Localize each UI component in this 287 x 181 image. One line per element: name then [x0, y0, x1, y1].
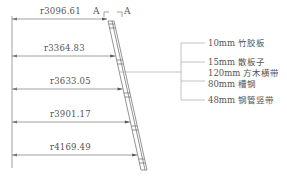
section-mark-a-a: A A [92, 6, 131, 17]
dimension-label: r3096.61 [40, 6, 81, 16]
dimension-lines: r3096.61 r3364.83 r3633.05 r3901.17 r416… [12, 6, 137, 157]
callout-label-loose-board: 15mm 散板子 [208, 57, 265, 67]
arrowhead-left-icon [12, 121, 17, 124]
formwork-strip [108, 21, 147, 170]
dimension-5: r4169.49 [12, 142, 137, 157]
callout-leader [119, 43, 205, 100]
callout-label-timber-wale: 120mm 方木横带 [208, 68, 279, 78]
arrowhead-left-icon [12, 88, 17, 91]
callout-label-steel-pipe: 48mm 钢管竖带 [208, 95, 274, 105]
dimension-label: r3633.05 [50, 76, 91, 86]
arrowhead-right-icon [132, 154, 137, 157]
section-mark-right: A [123, 6, 131, 16]
callout-label-channel-steel: 80mm 槽钢 [208, 79, 256, 89]
dimension-2: r3364.83 [12, 43, 115, 58]
arrowhead-right-icon [110, 55, 115, 58]
arrowhead-left-icon [12, 55, 17, 58]
callout-labels: 10mm 竹胶板 15mm 散板子 120mm 方木横带 80mm 槽钢 48m… [208, 38, 279, 105]
arrowhead-right-icon [118, 88, 123, 91]
arrowhead-right-icon [125, 121, 130, 124]
callout-label-bamboo-plywood: 10mm 竹胶板 [208, 38, 265, 48]
formwork-section-diagram: A A r3096.61 r3364.83 r3633.05 r3901.17 … [0, 0, 287, 181]
arrowhead-right-icon [102, 18, 107, 21]
dimension-4: r3901.17 [12, 109, 130, 124]
dimension-3: r3633.05 [12, 76, 123, 91]
dimension-label: r3901.17 [50, 109, 91, 119]
arrowhead-left-icon [12, 18, 17, 21]
section-mark-left: A [92, 6, 100, 16]
arrowhead-left-icon [12, 154, 17, 157]
dimension-label: r3364.83 [44, 43, 85, 53]
dimension-label: r4169.49 [50, 142, 91, 152]
